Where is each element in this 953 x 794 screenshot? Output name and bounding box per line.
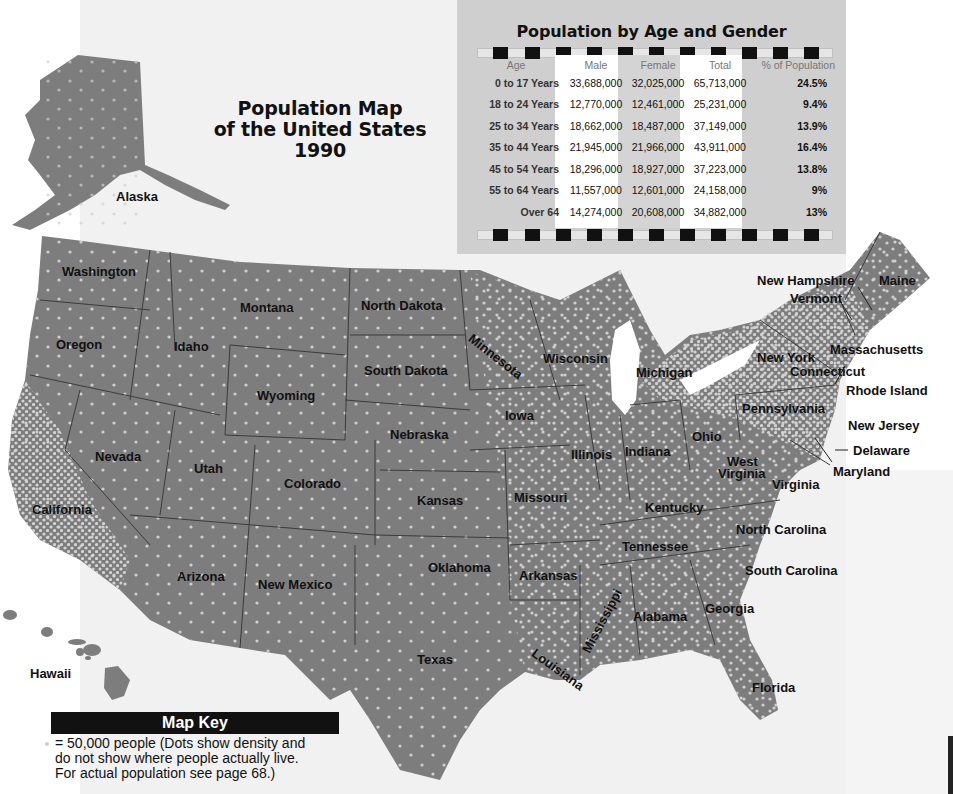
leader-lines (0, 0, 953, 794)
page-edge-bar (948, 736, 953, 794)
map-key-header: Map Key (51, 712, 339, 734)
map-key-line-2: do not show where people actually live. (45, 751, 385, 766)
map-key-line-3: For actual population see page 68.) (45, 766, 385, 781)
map-key-text: = 50,000 people (Dots show density and d… (45, 736, 385, 781)
map-key-line-1: = 50,000 people (Dots show density and (55, 735, 305, 751)
dot-icon (45, 742, 49, 746)
